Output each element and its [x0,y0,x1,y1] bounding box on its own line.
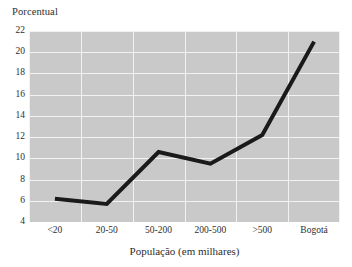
plot-area [29,31,340,222]
y-axis-title: Porcentual [12,6,58,17]
y-axis-tick-label: 20 [1,47,25,57]
x-axis-tick-labels: <2020-5050-200200-500>500Bogotá [29,225,340,239]
x-axis-tick-label: 50-200 [145,225,172,236]
chart-container: Porcentual 46810121416182022 <2020-5050-… [0,0,352,267]
y-axis-tick-label: 18 [1,68,25,78]
y-axis-tick-labels: 46810121416182022 [0,31,25,222]
y-axis-tick-label: 4 [1,217,25,227]
x-axis-tick-label: Bogotá [300,225,327,236]
y-axis-tick-label: 14 [1,111,25,121]
y-axis-tick-label: 16 [1,90,25,100]
x-axis-tick-label: <20 [47,225,62,236]
x-axis-tick-label: >500 [252,225,272,236]
x-axis-tick-label: 20-50 [96,225,118,236]
data-series-line [29,31,340,222]
series-polyline [55,42,314,204]
y-axis-tick-label: 10 [1,153,25,163]
x-axis-title: População (em milhares) [29,245,340,257]
y-axis-tick-label: 6 [1,196,25,206]
y-axis-tick-label: 22 [1,26,25,36]
y-axis-tick-label: 12 [1,132,25,142]
x-axis-tick-label: 200-500 [195,225,227,236]
y-axis-tick-label: 8 [1,175,25,185]
